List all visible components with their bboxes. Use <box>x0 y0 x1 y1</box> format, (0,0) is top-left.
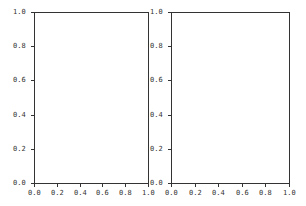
x-tick-label: 1.0 <box>283 189 296 197</box>
x-tick-mark <box>265 184 266 187</box>
x-tick-mark <box>80 184 81 187</box>
y-tick-mark <box>31 115 34 116</box>
axes-2 <box>171 12 290 184</box>
y-tick-mark <box>168 12 171 13</box>
y-tick-mark <box>168 115 171 116</box>
y-tick-label: 0.8 <box>13 42 26 50</box>
x-tick-mark <box>57 184 58 187</box>
x-tick-mark <box>148 184 149 187</box>
y-tick-label: 0.4 <box>13 111 26 119</box>
x-tick-label: 0.6 <box>236 189 249 197</box>
y-tick-mark <box>31 12 34 13</box>
x-tick-label: 0.2 <box>51 189 64 197</box>
y-tick-label: 0.8 <box>150 42 163 50</box>
x-tick-mark <box>34 184 35 187</box>
x-tick-label: 0.6 <box>96 189 109 197</box>
x-tick-label: 0.0 <box>165 189 178 197</box>
x-tick-label: 0.8 <box>259 189 272 197</box>
y-tick-mark <box>31 149 34 150</box>
x-tick-label: 0.4 <box>74 189 87 197</box>
y-tick-mark <box>168 46 171 47</box>
y-tick-label: 0.6 <box>13 76 26 84</box>
x-tick-label: 0.0 <box>28 189 41 197</box>
x-tick-mark <box>242 184 243 187</box>
x-tick-label: 0.8 <box>119 189 132 197</box>
y-tick-mark <box>168 80 171 81</box>
x-tick-label: 0.4 <box>212 189 225 197</box>
x-tick-label: 0.2 <box>189 189 202 197</box>
y-tick-label: 0.0 <box>13 179 26 187</box>
x-tick-mark <box>289 184 290 187</box>
y-tick-label: 0.2 <box>13 145 26 153</box>
y-tick-label: 1.0 <box>13 8 26 16</box>
axes-1 <box>34 12 149 184</box>
y-tick-label: 0.4 <box>150 111 163 119</box>
x-tick-mark <box>218 184 219 187</box>
x-tick-mark <box>195 184 196 187</box>
y-tick-label: 0.2 <box>150 145 163 153</box>
x-tick-label: 1.0 <box>142 189 155 197</box>
x-tick-mark <box>125 184 126 187</box>
y-tick-mark <box>31 80 34 81</box>
y-tick-label: 1.0 <box>150 8 163 16</box>
x-tick-mark <box>171 184 172 187</box>
y-tick-label: 0.6 <box>150 76 163 84</box>
y-tick-mark <box>31 46 34 47</box>
x-tick-mark <box>102 184 103 187</box>
y-tick-label: 0.0 <box>150 179 163 187</box>
y-tick-mark <box>168 149 171 150</box>
